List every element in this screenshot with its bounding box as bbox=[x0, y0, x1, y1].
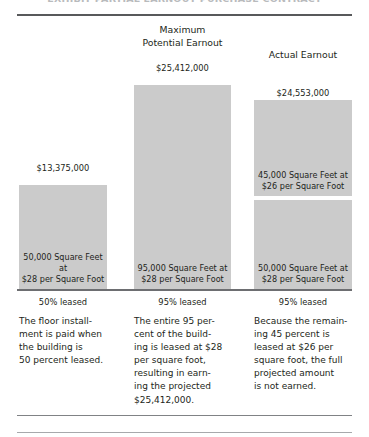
column-value-label: $13,375,000 bbox=[3, 163, 123, 173]
column-value-label: $25,412,000 bbox=[123, 63, 243, 73]
bar-segment-lower: 50,000 Square Feet at $28 per Square Foo… bbox=[254, 200, 352, 289]
bar-segment: 95,000 Square Feet at $28 per Square Foo… bbox=[134, 85, 231, 289]
chart-column-actual-earnout: Actual Earnout $24,553,000 45,000 Square… bbox=[254, 20, 352, 292]
bar-segment-label: 95,000 Square Feet at $28 per Square Foo… bbox=[134, 263, 231, 285]
earnout-bar-chart: $13,375,000 50,000 Square Feet at $28 pe… bbox=[0, 20, 369, 292]
column-header-label: Actual Earnout bbox=[236, 49, 369, 62]
caption-row: The floor install- ment is paid when the… bbox=[0, 315, 369, 415]
top-divider-rule bbox=[17, 14, 352, 16]
caption-text: The floor install- ment is paid when the… bbox=[19, 315, 129, 367]
caption-text: The entire 95 per- cent of the build- in… bbox=[134, 315, 244, 407]
column-header-label: Maximum Potential Earnout bbox=[115, 24, 250, 49]
clipped-page-title-text: EXHIBIT PARTIAL EARNOUT PURCHASE CONTRAC… bbox=[0, 0, 369, 4]
column-value-label: $24,553,000 bbox=[243, 88, 363, 98]
bar-segment: 50,000 Square Feet at $28 per Square Foo… bbox=[19, 185, 107, 289]
chart-column-maximum-potential-earnout: Maximum Potential Earnout $25,412,000 95… bbox=[134, 20, 231, 292]
bar-segment-label: 50,000 Square Feet at $28 per Square Foo… bbox=[19, 252, 107, 285]
bottom-divider-rule-2 bbox=[17, 432, 352, 433]
caption-text: Because the remain- ing 45 percent is le… bbox=[254, 315, 366, 394]
bar-segment-label: 50,000 Square Feet at $28 per Square Foo… bbox=[254, 263, 352, 285]
x-axis-tick-label: 95% leased bbox=[238, 297, 368, 307]
x-axis-tick-label: 50% leased bbox=[0, 297, 128, 307]
x-axis-tick-label: 95% leased bbox=[118, 297, 248, 307]
chart-baseline-axis bbox=[17, 289, 352, 291]
bar-segment-label: 45,000 Square Feet at $26 per Square Foo… bbox=[254, 170, 352, 192]
clipped-page-title: EXHIBIT PARTIAL EARNOUT PURCHASE CONTRAC… bbox=[0, 0, 369, 6]
bar-segment-upper: 45,000 Square Feet at $26 per Square Foo… bbox=[254, 100, 352, 196]
chart-column-floor-installment: $13,375,000 50,000 Square Feet at $28 pe… bbox=[19, 20, 107, 292]
bottom-divider-rule-1 bbox=[17, 415, 352, 416]
